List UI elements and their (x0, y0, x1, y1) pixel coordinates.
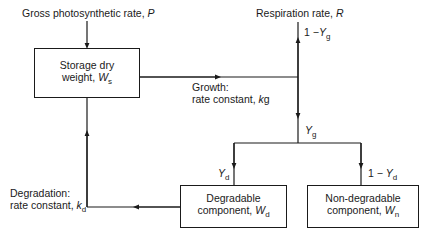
resp-frac-symbol: Y (319, 26, 326, 38)
nondeg-frac-sub: d (393, 173, 397, 182)
non-degradable-line2-text: component, (327, 204, 385, 216)
non-degradable-component-box: Non-degradable component, Wn (307, 185, 419, 228)
respiration-label: Respiration rate, R (256, 7, 344, 19)
photosynthesis-text: Gross photosynthetic rate, (22, 7, 147, 19)
degradable-line1: Degradable (206, 192, 260, 204)
nondeg-frac-symbol: Y (386, 167, 393, 179)
respiration-text: Respiration rate, (256, 7, 336, 19)
nondeg-frac-prefix: 1 − (368, 167, 386, 179)
degradation-line2: rate constant, kd (10, 199, 86, 216)
respiration-fraction-label: 1 −Yg (304, 26, 330, 43)
growth-line2-text: rate constant, (192, 93, 259, 105)
degradable-sub: d (265, 210, 269, 219)
degradable-symbol: W (255, 204, 265, 216)
respiration-symbol: R (336, 7, 344, 19)
non-degradable-fraction-label: 1 − Yd (368, 167, 397, 184)
deg-frac-symbol: Y (218, 167, 225, 179)
storage-symbol: W (98, 71, 108, 83)
non-degradable-symbol: W (385, 204, 395, 216)
non-degradable-line1: Non-degradable (325, 192, 400, 204)
degradation-line2-text: rate constant, (10, 199, 77, 211)
growth-label: Growth: rate constant, kg (192, 81, 270, 105)
degradation-label: Degradation: rate constant, kd (10, 187, 86, 216)
growth-sub: g (264, 93, 270, 105)
photosynthesis-label: Gross photosynthetic rate, P (22, 7, 155, 19)
growth-yield-label: Yg (305, 124, 316, 141)
non-degradable-line2: component, Wn (327, 204, 399, 221)
growth-line1: Growth: (192, 81, 270, 93)
degradation-line1: Degradation: (10, 187, 86, 199)
storage-dry-weight-box: Storage dry weight, Ws (34, 48, 140, 98)
non-degradable-sub: n (395, 210, 399, 219)
storage-line2-text: weight, (62, 71, 98, 83)
storage-sub: s (108, 77, 112, 86)
storage-line1: Storage dry (60, 59, 114, 71)
degradation-sub: d (82, 205, 86, 214)
degradable-component-box: Degradable component, Wd (180, 185, 287, 228)
photosynthesis-symbol: P (147, 7, 154, 19)
degradable-line2: component, Wd (197, 204, 269, 221)
degradable-line2-text: component, (197, 204, 255, 216)
growth-line2: rate constant, kg (192, 93, 270, 105)
growth-yield-sub: g (312, 130, 316, 139)
resp-frac-sub: g (326, 32, 330, 41)
resp-frac-prefix: 1 − (304, 26, 319, 38)
degradable-fraction-label: Yd (218, 167, 229, 184)
deg-frac-sub: d (225, 173, 229, 182)
growth-yield-symbol: Y (305, 124, 312, 136)
storage-line2: weight, Ws (62, 71, 112, 88)
